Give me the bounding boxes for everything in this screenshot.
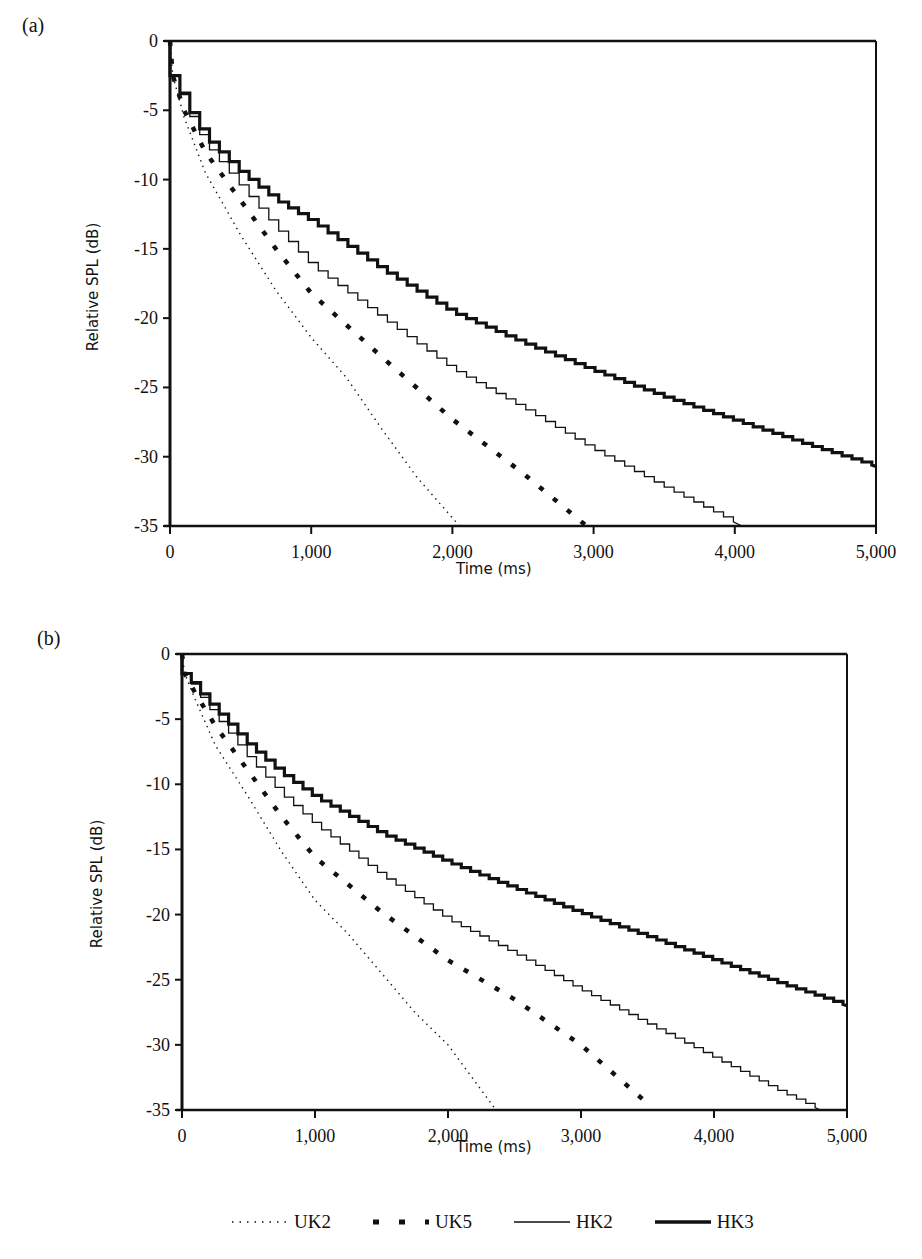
x-tick-label: 1,000 xyxy=(295,1126,336,1146)
y-tick-label: -30 xyxy=(146,1035,170,1055)
legend: UK2 UK5 HK2 HK3 xyxy=(230,1207,794,1237)
legend-label-uk2: UK2 xyxy=(294,1211,331,1233)
thin-solid-line-icon xyxy=(512,1217,572,1227)
series-uk5 xyxy=(182,654,648,1104)
dashed-thick-line-icon xyxy=(371,1217,431,1227)
y-tick-label: -25 xyxy=(146,970,170,990)
dotted-line-icon xyxy=(230,1217,290,1227)
series-hk3 xyxy=(182,654,847,1006)
legend-item-uk5: UK5 xyxy=(371,1211,472,1233)
y-tick-label: 0 xyxy=(161,644,170,664)
y-tick-label: -35 xyxy=(146,1100,170,1120)
x-tick-label: 3,000 xyxy=(561,1126,602,1146)
x-tick-label: 4,000 xyxy=(694,1126,735,1146)
legend-item-hk2: HK2 xyxy=(512,1211,613,1233)
thick-solid-line-icon xyxy=(653,1217,713,1227)
y-tick-label: -15 xyxy=(146,839,170,859)
y-tick-label: -5 xyxy=(155,709,170,729)
x-tick-label: 2,000 xyxy=(428,1126,469,1146)
panel-b-plot: 0-5-10-15-20-25-30-3501,0002,0003,0004,0… xyxy=(0,0,922,1200)
legend-label-hk3: HK3 xyxy=(717,1211,754,1233)
legend-item-hk3: HK3 xyxy=(653,1211,754,1233)
x-tick-label: 5,000 xyxy=(827,1126,868,1146)
y-tick-label: -10 xyxy=(146,774,170,794)
legend-label-uk5: UK5 xyxy=(435,1211,472,1233)
legend-label-hk2: HK2 xyxy=(576,1211,613,1233)
legend-item-uk2: UK2 xyxy=(230,1211,331,1233)
x-tick-label: 0 xyxy=(178,1126,187,1146)
y-tick-label: -20 xyxy=(146,905,170,925)
